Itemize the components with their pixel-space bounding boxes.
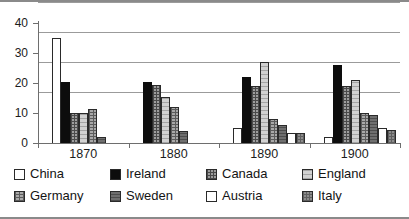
y-tick-label: 0 [2, 137, 28, 149]
bar-group-1870 [52, 23, 106, 143]
x-tick-mark [400, 143, 401, 148]
bar-ireland-1900[interactable] [333, 65, 342, 143]
bar-sweden-1880[interactable] [179, 131, 188, 143]
legend-row: ChinaIrelandCanadaEngland [14, 167, 400, 181]
bar-germany-1890[interactable] [269, 119, 278, 143]
chart-container: 010203040 1870188018901900 ChinaIrelandC… [0, 0, 409, 219]
legend-item-china[interactable]: China [14, 167, 110, 181]
bar-england-1890[interactable] [260, 62, 269, 143]
bar-germany-1880[interactable] [170, 107, 179, 143]
gridline [38, 2, 400, 3]
x-tick-mark [219, 143, 220, 148]
legend-swatch-canada-icon [206, 169, 217, 180]
bar-england-1870[interactable] [79, 113, 88, 143]
y-tick-label: 20 [2, 77, 28, 89]
bar-canada-1880[interactable] [152, 85, 161, 144]
y-tick-label: 40 [2, 17, 28, 29]
bar-set [233, 23, 305, 143]
legend-item-austria[interactable]: Austria [206, 189, 302, 203]
bar-set [143, 23, 188, 143]
bar-group-1900 [324, 23, 396, 143]
bar-italy-1900[interactable] [387, 130, 396, 144]
bar-set [52, 23, 106, 143]
bar-canada-1870[interactable] [70, 113, 79, 143]
bar-ireland-1870[interactable] [61, 82, 70, 144]
bar-germany-1870[interactable] [88, 109, 97, 144]
legend-swatch-england-icon [302, 169, 313, 180]
bar-canada-1900[interactable] [342, 86, 351, 143]
legend-item-sweden[interactable]: Sweden [110, 189, 206, 203]
bar-austria-1890[interactable] [287, 133, 296, 144]
x-tick-mark [38, 143, 39, 148]
legend-label: Germany [30, 189, 83, 203]
legend-label: China [30, 167, 64, 181]
x-label-1890: 1890 [219, 148, 310, 161]
bar-england-1900[interactable] [351, 80, 360, 143]
x-label-1880: 1880 [129, 148, 220, 161]
x-label-1900: 1900 [310, 148, 401, 161]
bar-ireland-1880[interactable] [143, 82, 152, 144]
plot-area [38, 23, 400, 143]
bar-germany-1900[interactable] [360, 113, 369, 143]
legend-row: GermanySwedenAustriaItaly [14, 189, 400, 203]
bar-china-1890[interactable] [233, 128, 242, 143]
legend-label: Sweden [126, 189, 173, 203]
legend-swatch-austria-icon [206, 191, 217, 202]
bar-italy-1890[interactable] [296, 133, 305, 144]
legend-swatch-italy-icon [302, 191, 313, 202]
bar-austria-1900[interactable] [378, 128, 387, 143]
legend-item-germany[interactable]: Germany [14, 189, 110, 203]
legend-swatch-sweden-icon [110, 191, 121, 202]
legend-label: Austria [222, 189, 262, 203]
legend-label: Italy [318, 189, 342, 203]
bar-sweden-1870[interactable] [97, 137, 106, 143]
y-tick-label: 30 [2, 47, 28, 59]
legend-swatch-germany-icon [14, 191, 25, 202]
bar-group-1880 [143, 23, 188, 143]
x-label-1870: 1870 [38, 148, 129, 161]
legend-swatch-china-icon [14, 169, 25, 180]
bar-sweden-1900[interactable] [369, 115, 378, 144]
bar-canada-1890[interactable] [251, 86, 260, 143]
legend-label: England [318, 167, 366, 181]
bar-ireland-1890[interactable] [242, 77, 251, 143]
x-tick-mark [310, 143, 311, 148]
bar-set [324, 23, 396, 143]
legend-label: Ireland [126, 167, 166, 181]
bar-england-1880[interactable] [161, 97, 170, 144]
legend-item-england[interactable]: England [302, 167, 398, 181]
bar-group-1890 [233, 23, 305, 143]
chart-legend: ChinaIrelandCanadaEngland GermanySwedenA… [0, 165, 409, 217]
legend-item-italy[interactable]: Italy [302, 189, 398, 203]
bar-china-1870[interactable] [52, 38, 61, 143]
legend-swatch-ireland-icon [110, 169, 121, 180]
x-tick-mark [129, 143, 130, 148]
legend-item-canada[interactable]: Canada [206, 167, 302, 181]
legend-label: Canada [222, 167, 268, 181]
bar-sweden-1890[interactable] [278, 125, 287, 143]
y-tick-label: 10 [2, 107, 28, 119]
bar-china-1900[interactable] [324, 137, 333, 143]
legend-item-ireland[interactable]: Ireland [110, 167, 206, 181]
